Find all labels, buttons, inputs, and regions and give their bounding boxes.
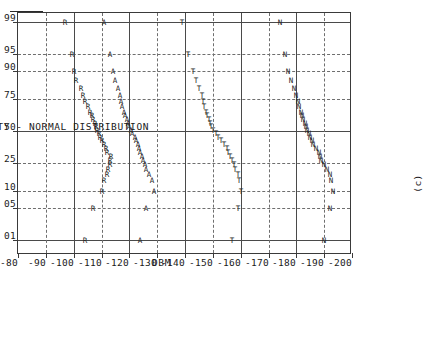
- ytick-label--170: -170: [244, 257, 268, 268]
- ytick-label--90: -90: [28, 257, 46, 268]
- ytick-label--180: -180: [272, 257, 296, 268]
- ytick-label--190: -190: [300, 257, 324, 268]
- data-point-R: R: [71, 68, 76, 76]
- data-point-T: T: [191, 68, 196, 76]
- data-point-T: T: [186, 51, 191, 59]
- gridline-dbm--180: [296, 13, 297, 253]
- probability-plot: 010510255075909599-80-90-100-110-120-130…: [0, 0, 404, 290]
- data-point-A: A: [102, 19, 107, 27]
- data-point-N: N: [286, 68, 291, 76]
- data-point-R: R: [63, 19, 68, 27]
- xtick-label-75: 75: [4, 89, 16, 100]
- data-point-A: A: [110, 68, 115, 76]
- xtick-label-25: 25: [4, 153, 16, 164]
- ytick--140: [185, 253, 186, 258]
- gridline-prob-95: [18, 54, 350, 55]
- gridline-dbm--190: [324, 13, 325, 253]
- data-point-T: T: [230, 238, 235, 246]
- ytick--180: [296, 253, 297, 258]
- data-point-N: N: [322, 238, 327, 246]
- data-point-R: R: [99, 188, 104, 196]
- gridline-prob-10: [18, 191, 350, 192]
- data-point-A: A: [116, 85, 121, 93]
- data-point-A: A: [152, 188, 157, 196]
- gridline-dbm--90: [46, 13, 47, 253]
- ytick-label--160: -160: [217, 257, 241, 268]
- ytick-label--120: -120: [105, 257, 129, 268]
- data-point-R: R: [83, 238, 88, 246]
- data-point-A: A: [138, 238, 143, 246]
- data-point-A: A: [113, 78, 118, 86]
- gridline-prob-25: [18, 163, 350, 164]
- data-point-R: R: [74, 78, 79, 86]
- data-point-N: N: [277, 19, 282, 27]
- data-point-N: N: [283, 51, 288, 59]
- data-point-N: N: [330, 188, 335, 196]
- data-point-T: T: [197, 85, 202, 93]
- gridline-dbm--160: [241, 13, 242, 253]
- data-point-N: N: [289, 78, 294, 86]
- gridline-dbm--140: [185, 13, 186, 253]
- xtick-label-05: 05: [4, 198, 16, 209]
- gridline-prob-05: [18, 208, 350, 209]
- ytick--80: [18, 253, 19, 258]
- ytick--190: [324, 253, 325, 258]
- xtick-label-01: 01: [4, 230, 16, 241]
- gridline-prob-01: [18, 240, 350, 241]
- ytick-label--100: -100: [50, 257, 74, 268]
- data-point-R: R: [78, 85, 83, 93]
- gridline-dbm--100: [74, 13, 75, 253]
- gridline-dbm--170: [269, 13, 270, 253]
- y-axis-title: DBM: [152, 257, 171, 268]
- xtick-label-99: 99: [4, 12, 16, 23]
- ytick-label--110: -110: [77, 257, 101, 268]
- xtick-label-95: 95: [4, 44, 16, 55]
- data-point-R: R: [70, 51, 75, 59]
- data-point-A: A: [108, 51, 113, 59]
- plot-frame: 010510255075909599-80-90-100-110-120-130…: [17, 12, 351, 254]
- ytick-label--80: -80: [0, 257, 18, 268]
- data-point-T: T: [180, 19, 185, 27]
- ytick-label--150: -150: [189, 257, 213, 268]
- xtick-label-90: 90: [4, 61, 16, 72]
- ytick-label--200: -200: [328, 257, 352, 268]
- figure-caption: (c): [412, 174, 423, 193]
- data-point-A: A: [144, 206, 149, 214]
- gridline-dbm--130: [157, 13, 158, 253]
- x-axis-title: CUMULATIVE PROBABILITY - NORMAL DISTRIBU…: [0, 121, 149, 132]
- gridline-prob-90: [18, 71, 350, 72]
- data-point-N: N: [327, 206, 332, 214]
- xtick-label-10: 10: [4, 181, 16, 192]
- data-point-N: N: [291, 85, 296, 93]
- data-point-T: T: [238, 188, 243, 196]
- ytick--120: [129, 253, 130, 258]
- data-point-R: R: [91, 206, 96, 214]
- data-point-T: T: [194, 78, 199, 86]
- ytick--200: [352, 253, 353, 258]
- data-point-T: T: [236, 206, 241, 214]
